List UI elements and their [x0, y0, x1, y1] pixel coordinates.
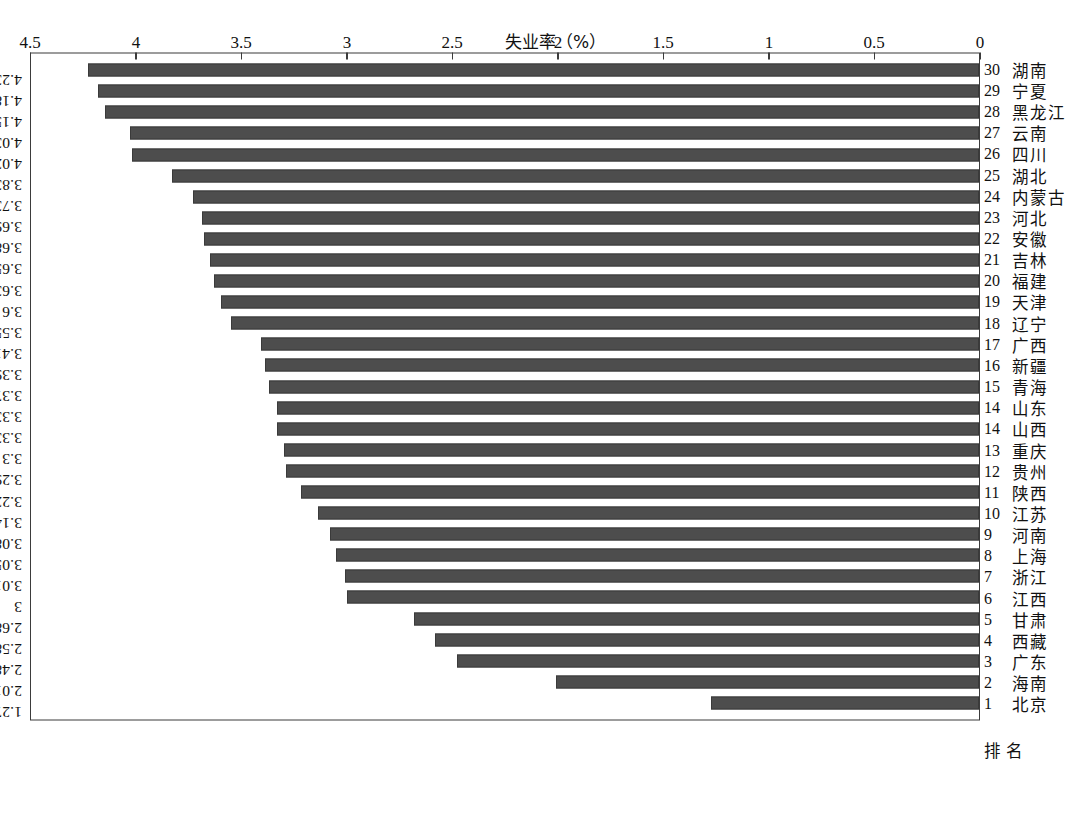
category-rank-label: 29	[984, 81, 1000, 99]
bar-value-label: 3	[14, 597, 22, 615]
category-rank-label: 10	[984, 504, 1000, 522]
bar-value-label: 3.01	[0, 576, 22, 594]
bar: 3.6	[221, 295, 979, 308]
bar-value-label: 4.18	[0, 91, 22, 109]
category-slot: 8上海	[982, 545, 1058, 566]
bar-value-label: 3.05	[0, 555, 22, 573]
value-axis-tick-label: 0	[976, 32, 985, 52]
category-rank-label: 3	[984, 652, 992, 670]
category-rank-label: 26	[984, 144, 1000, 162]
category-name-label: 山西	[1012, 416, 1048, 440]
category-rank-label: 9	[984, 525, 992, 543]
category-slot: 2海南	[982, 672, 1058, 693]
category-slot: 27云南	[982, 122, 1058, 143]
category-rank-label: 21	[984, 250, 1000, 268]
category-slot: 19天津	[982, 291, 1058, 312]
bar: 3.33	[277, 401, 979, 414]
bar-slot: 3.6	[31, 291, 979, 312]
category-name-label: 广东	[1012, 649, 1048, 673]
bar-slot: 4.23	[31, 59, 979, 80]
category-name-label: 吉林	[1012, 247, 1048, 271]
category-rank-label: 5	[984, 610, 992, 628]
bar-slot: 3.41	[31, 333, 979, 354]
category-slot: 17广西	[982, 333, 1058, 354]
category-slot: 11陕西	[982, 481, 1058, 502]
category-rank-label: 20	[984, 271, 1000, 289]
category-rank-label: 11	[984, 483, 999, 501]
tick-mark	[346, 52, 348, 59]
category-slot: 20福建	[982, 270, 1058, 291]
bar: 3.68	[204, 232, 979, 245]
category-rank-label: 8	[984, 546, 992, 564]
plot-area: 1.272.012.482.582.6833.013.053.083.143.2…	[30, 52, 980, 720]
category-rank-label: 25	[984, 166, 1000, 184]
value-axis-title: 失业率（%）	[505, 27, 606, 52]
category-name-label: 湖南	[1012, 57, 1048, 81]
bar-slot: 2.48	[31, 650, 979, 671]
category-slot: 22安徽	[982, 227, 1058, 248]
bar: 4.23	[88, 63, 979, 76]
bar: 3.05	[336, 548, 979, 561]
tick-mark	[557, 52, 559, 59]
bar-value-label: 1.27	[0, 702, 22, 720]
bar-slot: 3.73	[31, 186, 979, 207]
category-name-label: 云南	[1012, 120, 1048, 144]
category-rank-label: 19	[984, 292, 1000, 310]
bar-value-label: 3.83	[0, 175, 22, 193]
bar-slot: 3.69	[31, 207, 979, 228]
bar-slot: 3.22	[31, 481, 979, 502]
category-slot: 28黑龙江	[982, 100, 1058, 121]
category-rank-label: 16	[984, 356, 1000, 374]
bar-slot: 3	[31, 586, 979, 607]
bar-slot: 3.29	[31, 460, 979, 481]
category-rank-label: 12	[984, 462, 1000, 480]
bar-slot: 3.37	[31, 376, 979, 397]
bar-value-label: 4.23	[0, 70, 22, 88]
category-name-label: 四川	[1012, 141, 1048, 165]
category-rank-label: 22	[984, 229, 1000, 247]
bar-value-label: 4.02	[0, 154, 22, 172]
bar: 4.15	[105, 105, 979, 118]
category-name-label: 安徽	[1012, 226, 1048, 250]
category-name-label: 浙江	[1012, 564, 1048, 588]
category-slot: 10江苏	[982, 502, 1058, 523]
tick-mark	[241, 52, 243, 59]
category-name-label: 辽宁	[1012, 311, 1048, 335]
bar-slot: 3.01	[31, 565, 979, 586]
bar-value-label: 4.15	[0, 112, 22, 130]
tick-mark	[980, 52, 982, 59]
bar-slot: 3.14	[31, 502, 979, 523]
category-slot: 4西藏	[982, 629, 1058, 650]
bar: 3.14	[318, 506, 979, 519]
value-axis-tick-label: 3.5	[230, 32, 251, 52]
bar: 3.37	[269, 380, 979, 393]
bar-value-label: 2.68	[0, 618, 22, 636]
bar-value-label: 3.08	[0, 534, 22, 552]
category-rank-label: 15	[984, 377, 1000, 395]
bar: 2.01	[556, 675, 979, 688]
bar-slot: 4.15	[31, 101, 979, 122]
tick-mark	[663, 52, 665, 59]
bar-series: 1.272.012.482.582.6833.013.053.083.143.2…	[31, 53, 979, 719]
value-axis-tick-label: 0.5	[864, 32, 885, 52]
bar-value-label: 3.29	[0, 470, 22, 488]
bar-slot: 3.33	[31, 397, 979, 418]
bar-slot: 3.83	[31, 165, 979, 186]
category-rank-label: 27	[984, 123, 1000, 141]
category-rank-label: 18	[984, 314, 1000, 332]
bar-slot: 4.18	[31, 80, 979, 101]
bar-value-label: 3.65	[0, 259, 22, 277]
bar: 3.33	[277, 422, 979, 435]
bar: 3.63	[214, 274, 979, 287]
bar: 3.29	[286, 464, 979, 477]
category-slot: 24内蒙古	[982, 185, 1058, 206]
category-slot: 30湖南	[982, 58, 1058, 79]
bar-value-label: 3.14	[0, 513, 22, 531]
category-slot: 26四川	[982, 143, 1058, 164]
category-rank-label: 14	[984, 419, 1000, 437]
category-slot: 16新疆	[982, 354, 1058, 375]
bar-slot: 3.63	[31, 270, 979, 291]
bar-value-label: 3.6	[2, 302, 22, 320]
category-name-label: 江苏	[1012, 501, 1048, 525]
